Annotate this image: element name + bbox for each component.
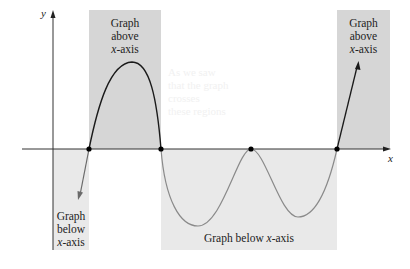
label-line: Graph [337,17,390,30]
label-line: x-axis [53,236,89,249]
zero-point [158,146,163,151]
ghost-text-line: that the graph [168,79,228,92]
ghost-text-line: crosses [168,92,200,105]
y-axis-arrow-icon [51,10,56,18]
y-axis-label: y [41,7,46,19]
zero-point [86,146,91,151]
label-line: Graph [89,17,161,30]
zero-point [334,146,339,151]
ghost-text-line: As we saw [168,66,216,79]
label-below-left: Graph below x-axis [53,210,89,249]
label-line: above [337,30,390,43]
label-line: below [53,223,89,236]
label-line: above [89,30,161,43]
label-above-left: Graph above x-axis [89,17,161,56]
label-above-right: Graph above x-axis [337,17,390,56]
label-line: x-axis [89,43,161,56]
label-line: Graph [53,210,89,223]
label-line: x-axis [337,43,390,56]
ghost-text-line: these regions [168,105,226,118]
label-below-middle: Graph below x-axis [161,232,337,245]
x-axis-label: x [388,152,393,164]
zero-point [248,146,253,151]
